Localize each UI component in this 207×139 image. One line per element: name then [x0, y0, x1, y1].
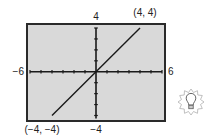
lightbulb-icon: [178, 89, 204, 115]
y-min-label: −4: [90, 124, 102, 135]
x-min-label: −6: [13, 66, 25, 77]
y-max-label: 4: [93, 11, 99, 22]
annotation-point-4-4: (4, 4): [133, 7, 156, 18]
graphing-calculator-chart: −6 6 4 −4 (4, 4) (−4, −4): [0, 0, 207, 139]
annotation-point-neg4-neg4: (−4, −4): [24, 124, 59, 135]
bulb-glass: [186, 93, 196, 105]
x-max-label: 6: [168, 66, 174, 77]
